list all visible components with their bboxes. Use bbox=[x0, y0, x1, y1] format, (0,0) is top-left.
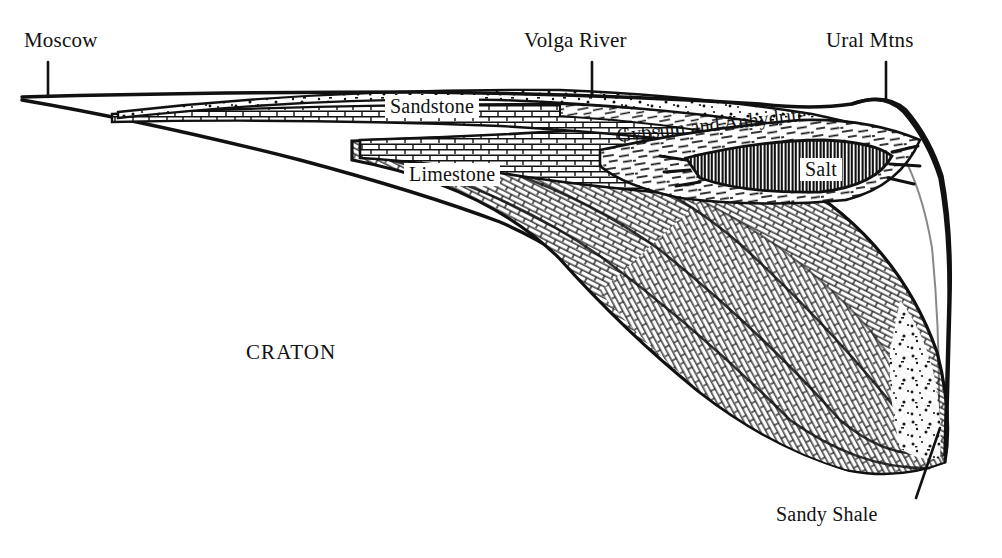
cross-section-drawing bbox=[0, 0, 1002, 558]
label-salt: Salt bbox=[800, 158, 842, 181]
label-limestone: Limestone bbox=[404, 163, 500, 186]
label-sandstone: Sandstone bbox=[385, 95, 479, 118]
label-volga-river: Volga River bbox=[524, 28, 627, 53]
label-sandy-shale: Sandy Shale bbox=[776, 503, 878, 526]
label-craton: CRATON bbox=[246, 340, 336, 365]
label-ural-mtns: Ural Mtns bbox=[826, 28, 914, 53]
label-moscow: Moscow bbox=[24, 28, 98, 53]
cross-section-figure: Moscow Volga River Ural Mtns Sandstone L… bbox=[0, 0, 1002, 558]
